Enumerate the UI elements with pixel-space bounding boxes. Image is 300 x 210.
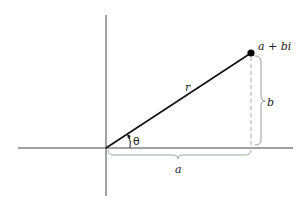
imag-label: b [267, 96, 274, 109]
real-brace [108, 150, 251, 159]
imag-brace [255, 56, 265, 145]
angle-label: θ [133, 135, 140, 148]
point-marker [247, 49, 254, 56]
real-label: a [175, 163, 182, 176]
angle-arrowhead [127, 134, 131, 139]
complex-plane-diagram: a + bi r θ b a [0, 0, 300, 210]
radius-label: r [185, 81, 191, 94]
point-label: a + bi [258, 40, 291, 53]
radius-line [106, 53, 251, 148]
